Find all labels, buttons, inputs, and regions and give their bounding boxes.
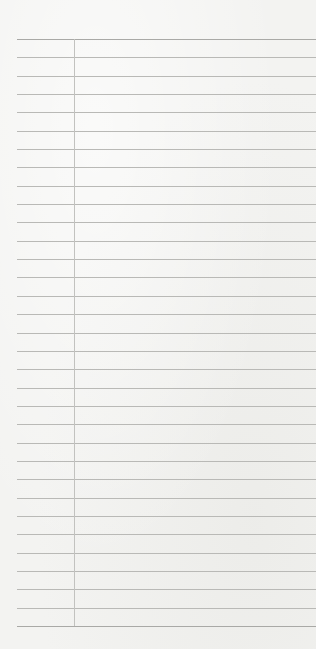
ruled-line: [17, 369, 316, 370]
ruled-line: [17, 351, 316, 352]
ruled-line: [17, 406, 316, 407]
ruled-line: [17, 314, 316, 315]
ruled-line: [17, 498, 316, 499]
ruled-line: [17, 553, 316, 554]
ruled-line: [17, 39, 316, 40]
ruled-line: [17, 516, 316, 517]
ruled-line: [17, 608, 316, 609]
ruled-line: [17, 149, 316, 150]
ruled-line: [17, 296, 316, 297]
ruled-line: [17, 94, 316, 95]
ruled-line: [17, 479, 316, 480]
ruled-line: [17, 589, 316, 590]
ruled-line: [17, 186, 316, 187]
ruled-line: [17, 131, 316, 132]
ruled-line: [17, 333, 316, 334]
ruled-line: [17, 277, 316, 278]
ruled-line: [17, 112, 316, 113]
ruled-line: [17, 388, 316, 389]
ruled-line: [17, 626, 316, 627]
notepad-page: [0, 0, 316, 649]
ruled-line: [17, 204, 316, 205]
ruled-line: [17, 259, 316, 260]
ruled-line: [17, 222, 316, 223]
ruled-line: [17, 571, 316, 572]
ruled-line: [17, 76, 316, 77]
ruled-line: [17, 167, 316, 168]
ruled-line: [17, 424, 316, 425]
ruled-line: [17, 461, 316, 462]
ruled-line: [17, 534, 316, 535]
ruled-line: [17, 57, 316, 58]
ruled-line: [17, 443, 316, 444]
margin-line: [74, 39, 75, 626]
ruled-line: [17, 241, 316, 242]
